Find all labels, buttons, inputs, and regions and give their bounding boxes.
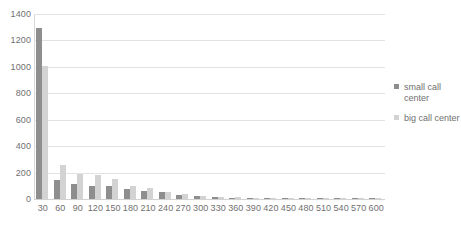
axis-baseline bbox=[34, 199, 385, 200]
bar-big-call-center-510 bbox=[323, 198, 329, 199]
y-axis-tick-label: 1000 bbox=[0, 63, 31, 72]
legend-entry[interactable]: small call center bbox=[394, 82, 460, 104]
bar-big-call-center-30 bbox=[42, 66, 48, 199]
y-axis-tick-label: 800 bbox=[0, 89, 31, 98]
bar-group bbox=[350, 14, 368, 199]
bar-big-call-center-540 bbox=[340, 198, 346, 199]
x-axis: 3060901201501802102402703003303603904204… bbox=[34, 203, 385, 219]
legend-label: small call center bbox=[404, 82, 460, 104]
bar-big-call-center-240 bbox=[165, 192, 171, 199]
bar-group bbox=[192, 14, 210, 199]
bar-big-call-center-420 bbox=[270, 198, 276, 199]
bar-group bbox=[210, 14, 228, 199]
bar-group bbox=[52, 14, 70, 199]
big-call-center-swatch bbox=[394, 115, 399, 120]
bar-group bbox=[139, 14, 157, 199]
bar-big-call-center-570 bbox=[358, 198, 364, 199]
bar-chart: 1400120010008006004002000 30609012015018… bbox=[0, 0, 461, 232]
bar-big-call-center-300 bbox=[200, 196, 206, 199]
bar-group bbox=[280, 14, 298, 199]
bar-big-call-center-270 bbox=[182, 194, 188, 199]
bar-big-call-center-210 bbox=[147, 188, 153, 199]
plot-area bbox=[34, 14, 385, 199]
bar-group bbox=[227, 14, 245, 199]
bar-group bbox=[69, 14, 87, 199]
bar-group bbox=[297, 14, 315, 199]
bar-big-call-center-600 bbox=[375, 198, 381, 199]
x-axis-tick-label: 600 bbox=[364, 203, 388, 213]
y-axis-tick-label: 200 bbox=[0, 169, 31, 178]
y-axis: 1400120010008006004002000 bbox=[0, 0, 31, 232]
bar-group bbox=[34, 14, 52, 199]
y-axis-tick-label: 1400 bbox=[0, 10, 31, 19]
bar-big-call-center-390 bbox=[253, 198, 259, 199]
bars-layer bbox=[34, 14, 385, 199]
bar-group bbox=[104, 14, 122, 199]
bar-group bbox=[122, 14, 140, 199]
bar-big-call-center-90 bbox=[77, 174, 83, 199]
bar-big-call-center-120 bbox=[95, 175, 101, 199]
bar-big-call-center-360 bbox=[235, 197, 241, 199]
chart-legend: small call centerbig call center bbox=[394, 82, 460, 133]
bar-big-call-center-180 bbox=[130, 186, 136, 199]
bar-group bbox=[367, 14, 385, 199]
small-call-center-swatch bbox=[394, 84, 399, 89]
bar-group bbox=[332, 14, 350, 199]
bar-big-call-center-450 bbox=[288, 198, 294, 199]
bar-group bbox=[87, 14, 105, 199]
bar-group bbox=[174, 14, 192, 199]
y-axis-tick-label: 0 bbox=[0, 195, 31, 204]
bar-big-call-center-480 bbox=[305, 198, 311, 199]
bar-group bbox=[245, 14, 263, 199]
legend-label: big call center bbox=[404, 113, 460, 124]
y-axis-tick-label: 1200 bbox=[0, 36, 31, 45]
bar-group bbox=[157, 14, 175, 199]
bar-group bbox=[315, 14, 333, 199]
bar-big-call-center-150 bbox=[112, 179, 118, 199]
bar-group bbox=[262, 14, 280, 199]
bar-big-call-center-60 bbox=[60, 165, 66, 199]
legend-entry[interactable]: big call center bbox=[394, 113, 460, 124]
bar-big-call-center-330 bbox=[218, 197, 224, 199]
y-axis-tick-label: 600 bbox=[0, 116, 31, 125]
y-axis-tick-label: 400 bbox=[0, 142, 31, 151]
